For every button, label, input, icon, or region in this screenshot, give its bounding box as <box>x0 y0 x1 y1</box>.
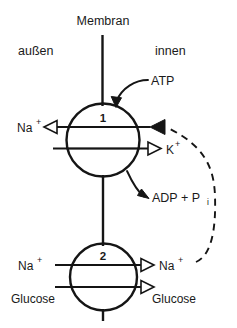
transporter1-energy-arrowhead <box>150 120 165 135</box>
diagram-canvas: Membran außen innen ATP 1 Na + K + ADP +… <box>0 0 237 328</box>
transporter1-sodium-arrowhead <box>44 121 57 134</box>
adp-label: ADP + P <box>152 191 200 205</box>
atp-label: ATP <box>151 74 174 88</box>
transporter2-sodium-out-label: Na <box>159 259 175 273</box>
transporter1-potassium-charge: + <box>175 139 180 149</box>
label-outside: außen <box>18 44 53 58</box>
transporter2-glucose-in-label: Glucose <box>11 292 55 306</box>
membrane-title: Membran <box>77 14 130 28</box>
transporter2-sodium-in-charge: + <box>37 255 42 265</box>
transporter1-potassium-arrowhead <box>148 142 161 155</box>
transporter2-glucose-out-label: Glucose <box>152 292 196 306</box>
transporter1-sodium-charge: + <box>36 117 41 127</box>
transporter1-sodium-label: Na <box>17 121 33 135</box>
transporter2-sodium-arrowhead <box>141 259 154 272</box>
transporter1-number: 1 <box>100 112 107 124</box>
transporter2-sodium-in-label: Na <box>18 259 34 273</box>
transporter2-number: 2 <box>100 250 106 262</box>
transporter2-sodium-out-charge: + <box>178 255 183 265</box>
membrane-transport-diagram: Membran außen innen ATP 1 Na + K + ADP +… <box>0 0 237 328</box>
adp-label-subscript: i <box>207 197 209 207</box>
label-inside: innen <box>155 44 186 58</box>
transporter1-potassium-label: K <box>166 143 174 157</box>
